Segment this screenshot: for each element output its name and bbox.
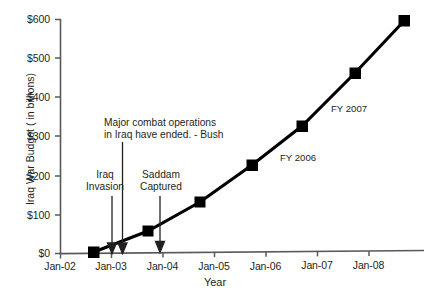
y-tick-label: $0 bbox=[6, 247, 50, 259]
chart-container: $600 $500 $400 $300 $200 $100 $0 Jan-02 … bbox=[0, 0, 428, 298]
data-point-marker bbox=[350, 68, 362, 80]
y-axis-title: Iraq War Budget ( in billions) bbox=[24, 49, 36, 229]
data-point-marker bbox=[247, 160, 259, 172]
label-fy-2007: FY 2007 bbox=[331, 103, 367, 114]
chart-plot-area bbox=[0, 0, 428, 298]
annotation-saddam-captured: Saddam Captured bbox=[132, 169, 190, 194]
x-tick-label: Jan-08 bbox=[339, 259, 399, 271]
annotation-iraq-invasion: Iraq Invasion bbox=[75, 169, 135, 194]
data-point-marker bbox=[195, 197, 206, 208]
data-point-marker bbox=[297, 121, 309, 133]
arrowhead-major-combat bbox=[118, 243, 127, 254]
x-axis-title: Year bbox=[165, 276, 265, 288]
data-point-marker bbox=[399, 15, 411, 27]
data-point-marker bbox=[88, 247, 100, 259]
annotation-major-combat: Major combat operations in Iraq have end… bbox=[104, 117, 294, 142]
data-point-marker bbox=[143, 226, 154, 237]
arrowhead-saddam-captured bbox=[156, 242, 165, 253]
label-fy-2006: FY 2006 bbox=[280, 152, 316, 163]
arrowhead-iraq-invasion bbox=[108, 243, 117, 254]
y-tick-label: $600 bbox=[6, 13, 50, 25]
